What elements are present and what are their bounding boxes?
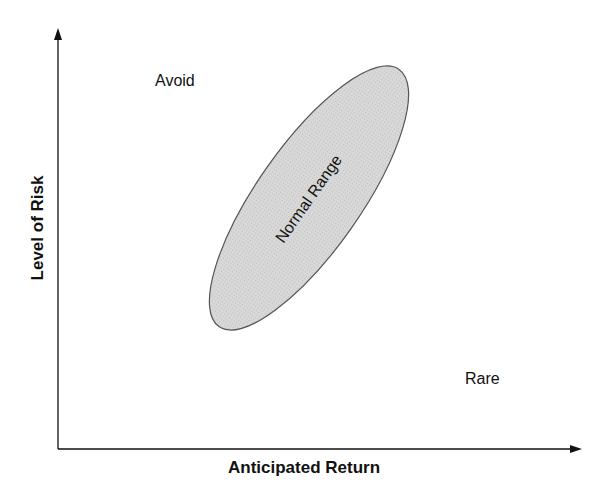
x-axis-arrow-icon bbox=[570, 445, 582, 453]
x-axis bbox=[58, 445, 582, 453]
y-axis-label: Level of Risk bbox=[28, 176, 48, 281]
y-axis bbox=[54, 28, 62, 449]
diagram-canvas bbox=[0, 0, 599, 503]
y-axis-arrow-icon bbox=[54, 28, 62, 40]
region-label-avoid: Avoid bbox=[155, 72, 195, 90]
region-label-rare: Rare bbox=[465, 370, 500, 388]
x-axis-label: Anticipated Return bbox=[228, 458, 380, 478]
